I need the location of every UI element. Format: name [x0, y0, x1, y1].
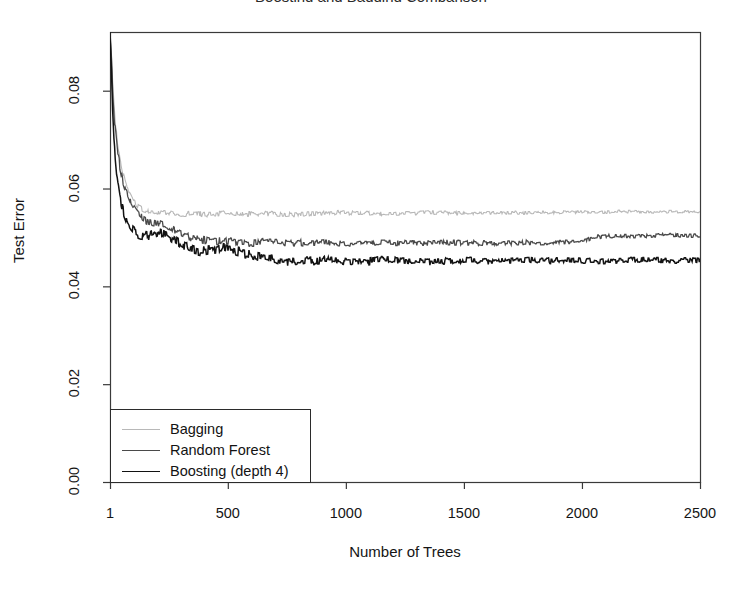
legend-item-label: Bagging	[170, 422, 223, 437]
legend-line-swatch	[122, 429, 160, 430]
legend-line-swatch	[122, 450, 160, 451]
legend-item-label: Boosting (depth 4)	[170, 464, 289, 479]
series-line-bagging	[110, 30, 700, 217]
x-axis-label: Number of Trees	[110, 543, 700, 560]
x-tick-label: 1000	[311, 505, 381, 521]
legend-item: Bagging	[111, 419, 312, 440]
y-tick-label: 0.08	[66, 64, 82, 116]
x-tick-label: 2500	[665, 505, 735, 521]
legend-line-swatch	[122, 471, 160, 472]
x-tick-label: 1	[75, 505, 145, 521]
y-tick-label: 0.02	[66, 357, 82, 409]
plot-canvas	[0, 0, 742, 590]
series-line-boosting-depth-4	[110, 30, 700, 266]
chart-legend: BaggingRandom ForestBoosting (depth 4)	[110, 409, 311, 483]
legend-item: Random Forest	[111, 440, 312, 461]
x-tick-label: 1500	[429, 505, 499, 521]
y-tick-label: 0.06	[66, 162, 82, 214]
legend-item: Boosting (depth 4)	[111, 461, 312, 482]
x-tick-label: 500	[193, 505, 263, 521]
test-error-chart-figure: Boosting and Bagging Comparison Test Err…	[0, 0, 742, 590]
legend-item-label: Random Forest	[170, 443, 270, 458]
x-tick-label: 2000	[547, 505, 617, 521]
y-tick-label: 0.04	[66, 259, 82, 311]
y-tick-label: 0.00	[66, 455, 82, 507]
y-axis-label: Test Error	[10, 161, 27, 301]
series-lines	[110, 30, 700, 266]
